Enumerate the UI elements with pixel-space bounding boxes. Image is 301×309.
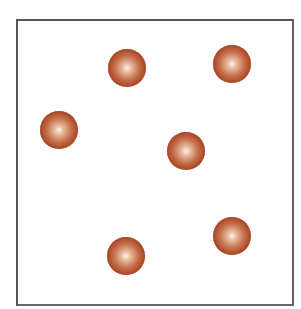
particle-sphere	[213, 217, 251, 255]
particle-sphere	[107, 237, 145, 275]
container-box	[16, 19, 294, 306]
particle-sphere	[40, 111, 78, 149]
particle-sphere	[108, 49, 146, 87]
particle-sphere	[213, 45, 251, 83]
particle-sphere	[167, 132, 205, 170]
